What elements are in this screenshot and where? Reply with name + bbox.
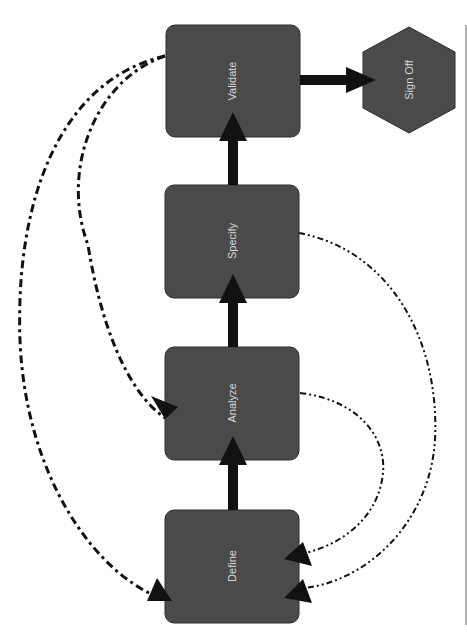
edge-validate-to-analyze <box>78 56 165 418</box>
node-label-validate: Validate <box>226 62 238 101</box>
flow-diagram: Validate Sign Off Specify Analyze Define <box>0 0 467 640</box>
node-label-define: Define <box>226 550 238 582</box>
node-signoff[interactable]: Sign Off <box>363 27 455 133</box>
node-label-specify: Specify <box>226 222 238 259</box>
node-label-signoff: Sign Off <box>403 59 415 99</box>
node-label-analyze: Analyze <box>226 383 238 422</box>
edge-validate-to-define <box>20 56 165 598</box>
edge-specify-to-define <box>299 233 435 588</box>
edge-analyze-to-define <box>300 393 383 553</box>
node-define[interactable]: Define <box>165 510 299 623</box>
